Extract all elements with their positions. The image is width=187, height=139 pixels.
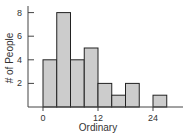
histogram-chart: 246801224 Ordinary # of People [0, 0, 187, 139]
histogram-bar [57, 13, 71, 107]
histogram-bar [71, 60, 85, 107]
histogram-bar [43, 60, 57, 107]
histogram-bar [112, 95, 126, 107]
histogram-bar [126, 83, 140, 107]
y-tick-label: 8 [17, 8, 22, 18]
x-tick-label: 24 [148, 113, 158, 123]
y-tick-label: 6 [17, 31, 22, 41]
histogram-bars [43, 13, 167, 107]
histogram-bar [84, 48, 98, 107]
y-tick-label: 2 [17, 78, 22, 88]
y-axis-title: # of People [4, 32, 15, 83]
x-tick-label: 0 [40, 113, 45, 123]
histogram-bar [153, 95, 167, 107]
y-tick-label: 4 [17, 55, 22, 65]
histogram-bar [98, 83, 112, 107]
x-axis-title: Ordinary [79, 122, 117, 133]
